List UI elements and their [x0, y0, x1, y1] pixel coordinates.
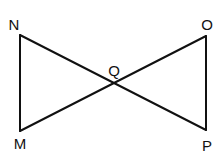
label-m: M [14, 135, 27, 152]
label-n: N [9, 16, 20, 33]
bowtie-diagram: N O Q M P [0, 0, 221, 158]
label-o: O [201, 16, 213, 33]
label-q: Q [108, 62, 120, 79]
label-p: P [202, 137, 212, 154]
